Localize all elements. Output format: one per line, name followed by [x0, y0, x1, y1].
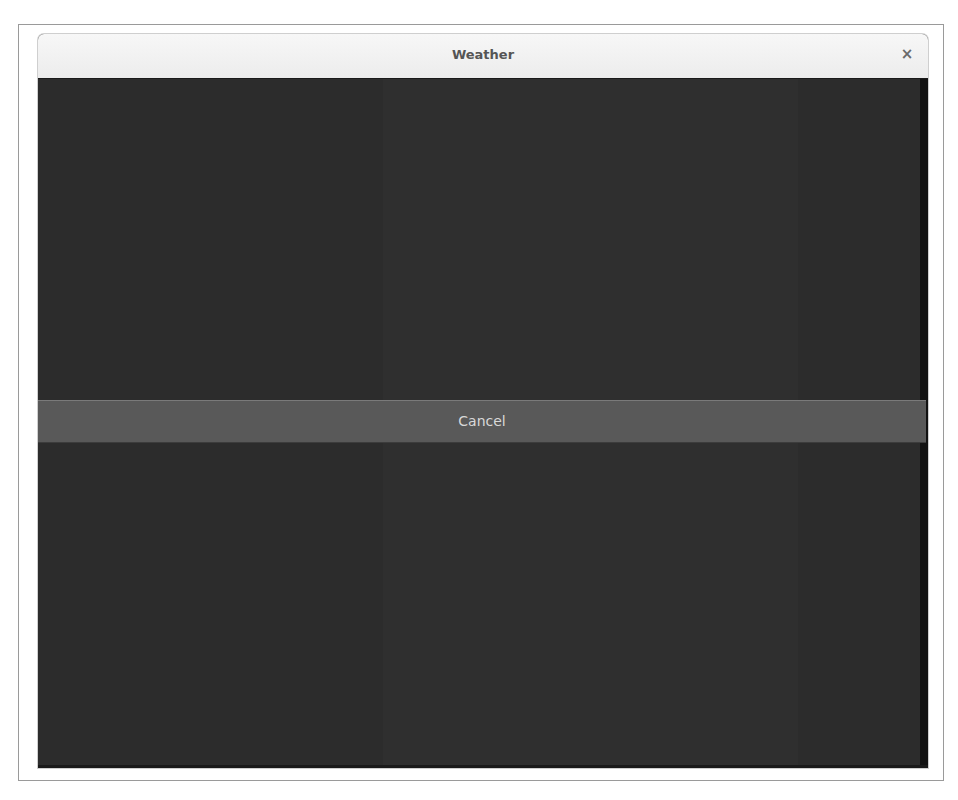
close-button[interactable]: ×: [898, 45, 916, 63]
window-title: Weather: [38, 47, 928, 62]
title-bar[interactable]: Weather ×: [38, 34, 928, 79]
content-bottom-edge: [38, 765, 928, 768]
content-area: Cancel: [38, 79, 928, 768]
weather-window: Weather × Cancel: [38, 34, 928, 768]
cancel-button[interactable]: Cancel: [38, 400, 926, 443]
close-icon: ×: [901, 45, 914, 63]
